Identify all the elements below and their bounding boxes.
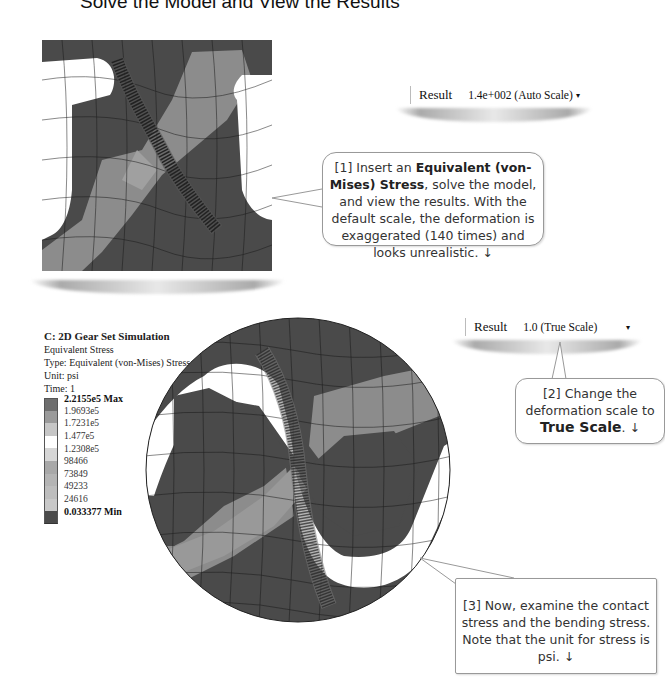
down-arrow-icon: ↓ (482, 245, 492, 260)
legend-swatch (44, 474, 58, 487)
step-number: [3] (463, 598, 481, 613)
legend-swatch (44, 411, 58, 424)
legend-swatch (44, 423, 58, 436)
callout-pointer (270, 185, 326, 215)
legend-swatch (44, 398, 58, 411)
legend-swatch (44, 436, 58, 449)
image-shadow (30, 280, 285, 294)
page-title: Solve the Model and View the Results (80, 0, 400, 13)
result-label: Result (474, 319, 507, 335)
legend-swatch (44, 499, 58, 512)
callout-step-3: [3] Now, examine the contact stress and … (455, 578, 657, 674)
auto-scale-result-view (42, 40, 272, 271)
legend-swatch (44, 511, 58, 524)
callout-step-2: [2] Change the deformation scale to True… (515, 378, 665, 444)
step-number: [1] (335, 160, 353, 175)
emphasis: True Scale (540, 419, 621, 435)
legend-swatch (44, 461, 58, 474)
deformation-scale-dropdown-auto[interactable]: Result 1.4e+002 (Auto Scale) ▾ (410, 84, 590, 106)
gear-mesh-image-true-scale (144, 316, 452, 624)
legend-swatch (44, 448, 58, 461)
toolbar-separator (465, 318, 466, 336)
chevron-down-icon[interactable]: ▾ (576, 91, 580, 100)
deformation-scale-dropdown-true[interactable]: Result 1.0 (True Scale) ▾ (465, 316, 640, 338)
stress-color-legend: 2.2155e5 Max 1.9693e5 1.7231e5 1.477e5 1… (44, 398, 123, 524)
result-label: Result (419, 87, 452, 103)
page-title-text: Solve the Model and View the Results (80, 0, 400, 12)
chevron-down-icon[interactable]: ▾ (626, 323, 630, 332)
dropdown-shadow (396, 108, 592, 122)
callout-step-1: [1] Insert an Equivalent (von-Mises) Str… (322, 152, 544, 246)
deformation-scale-value[interactable]: 1.4e+002 (Auto Scale) (468, 89, 576, 101)
gear-mesh-image-auto-scale (42, 40, 272, 271)
down-arrow-icon: ↓ (564, 649, 574, 664)
dropdown-shadow (452, 340, 642, 354)
callout-pointer (548, 340, 588, 380)
legend-swatch (44, 486, 58, 499)
legend-row: 0.033377 Min (44, 511, 123, 524)
down-arrow-icon: ↓ (629, 420, 639, 435)
toolbar-separator (410, 86, 411, 104)
step-number: [2] (543, 386, 561, 401)
deformation-scale-value[interactable]: 1.0 (True Scale) (523, 321, 626, 333)
